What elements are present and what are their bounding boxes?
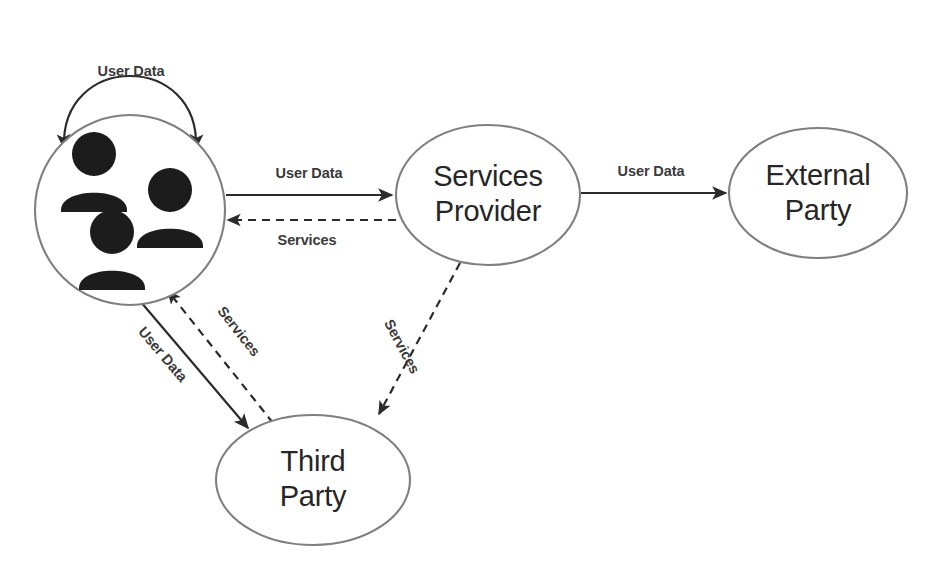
diagram-canvas: User Data User Data Services User Data U… <box>0 0 941 570</box>
edge-provider-to-external: User Data <box>581 163 726 193</box>
node-services-provider-label-line2: Provider <box>435 195 542 227</box>
edge-third-to-users: Services <box>168 291 273 423</box>
data-flow-diagram: User Data User Data Services User Data U… <box>0 0 941 570</box>
node-third-party-label-line2: Party <box>280 480 347 512</box>
node-external-party[interactable]: External Party <box>729 128 907 258</box>
node-users[interactable] <box>35 115 225 305</box>
edge-users-to-provider: User Data <box>226 165 392 195</box>
edge-label-provider-to-external: User Data <box>618 163 686 179</box>
node-external-party-label-line1: External <box>766 159 871 191</box>
edge-label-third-to-users: Services <box>214 303 263 359</box>
edge-label-users-to-provider: User Data <box>276 165 344 181</box>
node-services-provider[interactable]: Services Provider <box>396 125 580 265</box>
node-third-party-label-line1: Third <box>280 445 345 477</box>
edge-label-provider-to-users: Services <box>278 232 337 248</box>
edge-label-users-self-loop: User Data <box>98 63 166 79</box>
edge-provider-to-users: Services <box>228 220 396 248</box>
node-external-party-label-line2: Party <box>785 194 852 226</box>
edge-provider-to-third: Services <box>379 263 460 414</box>
node-third-party[interactable]: Third Party <box>216 415 410 545</box>
node-services-provider-label-line1: Services <box>433 160 543 192</box>
edge-label-users-to-third: User Data <box>135 324 191 386</box>
edge-label-provider-to-third: Services <box>381 317 423 376</box>
